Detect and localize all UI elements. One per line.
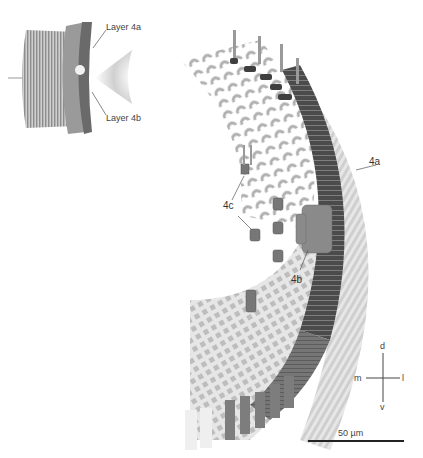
leader-layer-4b bbox=[92, 92, 106, 115]
compass-dorsal: d bbox=[380, 341, 385, 351]
leader-4c-lower bbox=[238, 216, 252, 230]
label-4b: 4b bbox=[291, 274, 302, 285]
compass-lateral: l bbox=[402, 373, 404, 383]
label-4a: 4a bbox=[369, 156, 380, 167]
compass-medial: m bbox=[354, 373, 362, 383]
leader-layer-4a bbox=[93, 30, 106, 48]
layer-cell-arc bbox=[180, 30, 369, 450]
label-4c: 4c bbox=[223, 200, 234, 211]
label-layer-4b: Layer 4b bbox=[106, 113, 141, 123]
scale-bar-label: 50 µm bbox=[338, 428, 363, 438]
orientation-compass bbox=[366, 353, 400, 402]
label-layer-4a: Layer 4a bbox=[106, 22, 141, 32]
figure-canvas bbox=[0, 0, 423, 458]
compass-ventral: v bbox=[380, 402, 385, 412]
